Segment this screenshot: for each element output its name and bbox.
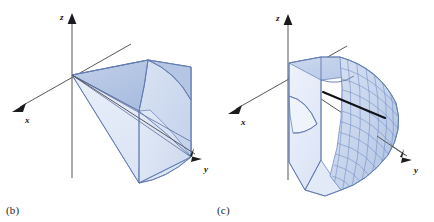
axis-z-b [68, 13, 77, 178]
solid-sphere-wedge-c [289, 55, 408, 196]
axis-label-y-b: y [203, 164, 209, 174]
solid-cone-wedge-b [72, 60, 191, 183]
axis-label-y-c: y [413, 165, 419, 175]
axis-label-x-c: x [240, 117, 246, 127]
axis-label-z-b: z [59, 12, 64, 22]
figure-board: z x y (b) [0, 0, 434, 222]
panel-caption-b: (b) [6, 204, 19, 216]
diagram-b-canvas: z x y [0, 0, 217, 222]
figure-panel-c: z x y (c) [217, 0, 434, 222]
diagram-c-canvas: z x y [217, 0, 434, 222]
axis-label-z-c: z [275, 13, 280, 23]
figure-panel-b: z x y (b) [0, 0, 217, 222]
panel-caption-c: (c) [217, 204, 230, 216]
axis-label-x-b: x [24, 115, 30, 125]
